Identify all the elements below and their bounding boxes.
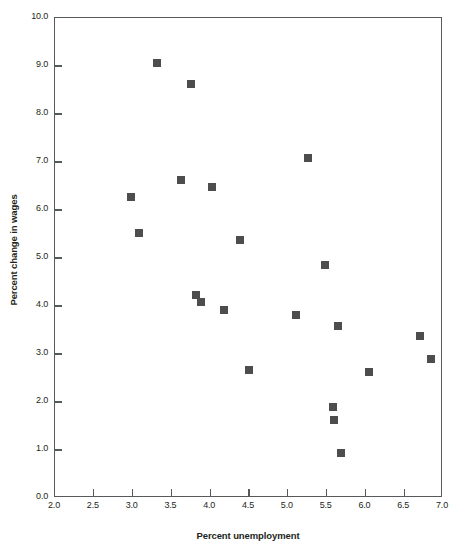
- data-point: [329, 403, 337, 411]
- data-point: [427, 355, 435, 363]
- data-point: [365, 368, 373, 376]
- y-axis-tick-label: 1.0: [4, 443, 48, 453]
- data-point: [153, 59, 161, 67]
- x-axis-tick-label: 4.0: [203, 500, 215, 510]
- x-axis-tick-label: 3.5: [164, 500, 176, 510]
- data-point: [187, 80, 195, 88]
- y-axis-tick: [55, 401, 62, 403]
- x-axis-tick-label: 6.5: [397, 500, 409, 510]
- y-axis-tick-label: 0.0: [4, 491, 48, 501]
- y-axis-tick: [55, 257, 62, 259]
- x-axis-tick: [210, 489, 211, 496]
- y-axis-tick-label: 2.0: [4, 395, 48, 405]
- data-point: [208, 183, 216, 191]
- data-point: [245, 366, 253, 374]
- x-axis-tick: [404, 489, 405, 496]
- y-axis-tick: [55, 449, 62, 451]
- x-axis-tick: [248, 489, 249, 496]
- data-point: [330, 416, 338, 424]
- plot-area: [54, 17, 442, 497]
- x-axis-tick: [93, 489, 94, 496]
- y-axis-tick-label: 10.0: [4, 11, 48, 21]
- x-axis-tick-label: 5.0: [281, 500, 293, 510]
- data-point: [127, 193, 135, 201]
- x-axis-tick-label: 5.5: [320, 500, 332, 510]
- data-point: [220, 306, 228, 314]
- y-axis-tick-label: 3.0: [4, 347, 48, 357]
- x-axis-tick-label: 3.0: [126, 500, 138, 510]
- x-axis-tick: [287, 489, 288, 496]
- x-axis-tick-label: 7.0: [436, 500, 448, 510]
- y-axis-tick: [55, 65, 62, 67]
- y-axis-tick-label: 5.0: [4, 251, 48, 261]
- data-point: [236, 236, 244, 244]
- y-axis-tick: [55, 305, 62, 307]
- data-point: [337, 449, 345, 457]
- x-axis-tick-label: 2.5: [87, 500, 99, 510]
- y-axis-tick: [55, 353, 62, 355]
- x-axis-tick-label: 2.0: [48, 500, 60, 510]
- x-axis-tick: [132, 489, 133, 496]
- data-point: [304, 154, 312, 162]
- y-axis-tick: [55, 209, 62, 211]
- x-axis-tick: [365, 489, 366, 496]
- data-point: [416, 332, 424, 340]
- y-axis-tick-label: 9.0: [4, 59, 48, 69]
- y-axis-tick-label: 6.0: [4, 203, 48, 213]
- data-point: [197, 298, 205, 306]
- y-axis-tick: [55, 113, 62, 115]
- x-axis-title: Percent unemployment: [54, 530, 442, 541]
- data-point: [321, 261, 329, 269]
- data-point: [135, 229, 143, 237]
- y-axis-title-wrapper: Percent change in wages: [0, 0, 26, 500]
- y-axis-tick-label: 7.0: [4, 155, 48, 165]
- scatter-plot-figure: Percent change in wages Percent unemploy…: [0, 0, 463, 553]
- y-axis-tick: [55, 161, 62, 163]
- data-point: [177, 176, 185, 184]
- y-axis-tick-label: 8.0: [4, 107, 48, 117]
- data-point: [334, 322, 342, 330]
- y-axis-tick-label: 4.0: [4, 299, 48, 309]
- x-axis-tick-label: 6.0: [358, 500, 370, 510]
- x-axis-tick: [171, 489, 172, 496]
- x-axis-tick: [326, 489, 327, 496]
- data-point: [292, 311, 300, 319]
- x-axis-tick-label: 4.5: [242, 500, 254, 510]
